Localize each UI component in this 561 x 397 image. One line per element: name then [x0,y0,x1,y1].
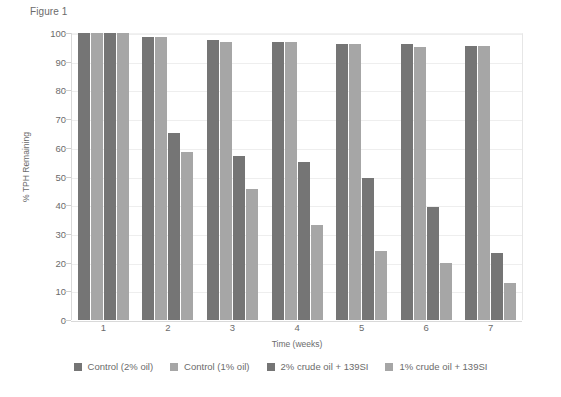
bar-group [71,33,136,320]
y-axis-tick-label: 90 [6,56,66,67]
bar [465,46,477,320]
bar [233,156,245,320]
y-axis-tick-label: 100 [6,28,66,39]
y-axis-tick-mark [65,320,71,321]
legend-swatch-icon [170,363,178,371]
bar [298,162,310,320]
y-axis-tick-label: 0 [6,315,66,326]
x-axis-tick-label: 2 [136,322,201,333]
legend-swatch-icon [385,363,393,371]
bar [246,189,258,320]
bar [362,178,374,320]
bar [220,42,232,320]
y-axis-tick-label: 80 [6,85,66,96]
bar [349,44,361,320]
bar-group [200,33,265,320]
y-axis-tick-label: 10 [6,286,66,297]
bar [142,37,154,320]
y-axis-tick-label: 20 [6,257,66,268]
bar [104,33,116,320]
bar-group [329,33,394,320]
bar-groups [71,33,523,320]
legend-label: 1% crude oil + 139SI [399,361,487,372]
bar [117,33,129,320]
bar [504,283,516,320]
bar [285,42,297,320]
x-axis-title: Time (weeks) [71,339,523,349]
bar [91,33,103,320]
bar [478,46,490,320]
bar [311,225,323,320]
bar-chart: % TPH Remaining 0102030405060708090100 1… [0,22,561,332]
legend-item[interactable]: 2% crude oil + 139SI [267,361,369,372]
y-axis-tick-label: 60 [6,142,66,153]
legend-label: Control (2% oil) [88,361,153,372]
bar-group [458,33,523,320]
x-axis-tick-labels: 1234567 [71,322,523,333]
bar [491,253,503,320]
legend-item[interactable]: 1% crude oil + 139SI [385,361,487,372]
bar [427,207,439,320]
x-axis-tick-label: 3 [200,322,265,333]
bar-group [265,33,330,320]
bar [401,44,413,320]
x-axis-tick-label: 5 [329,322,394,333]
legend-label: 2% crude oil + 139SI [281,361,369,372]
bar [440,263,452,320]
bar [272,42,284,320]
bar [375,251,387,320]
legend-label: Control (1% oil) [184,361,249,372]
y-axis-tick-label: 30 [6,228,66,239]
figure-caption: Figure 1 [30,6,68,17]
legend-swatch-icon [74,363,82,371]
chart-legend: Control (2% oil)Control (1% oil)2% crude… [0,361,561,372]
bar-group [394,33,459,320]
y-axis-tick-label: 70 [6,114,66,125]
bar [181,152,193,320]
y-axis-tick-label: 40 [6,200,66,211]
bar [155,37,167,320]
legend-item[interactable]: Control (1% oil) [170,361,249,372]
y-axis-tick-label: 50 [6,171,66,182]
bar [207,40,219,320]
bar [336,44,348,320]
legend-swatch-icon [267,363,275,371]
bar [168,133,180,320]
bar [414,47,426,320]
x-axis-tick-label: 4 [265,322,330,333]
x-axis-tick-label: 1 [71,322,136,333]
bar-group [136,33,201,320]
legend-item[interactable]: Control (2% oil) [74,361,153,372]
x-axis-tick-label: 6 [394,322,459,333]
x-axis-tick-label: 7 [458,322,523,333]
bar [78,33,90,320]
